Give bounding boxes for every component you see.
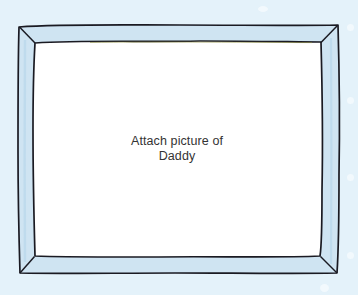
frame-illustration-canvas: Attach picture of Daddy — [0, 0, 358, 295]
frame-top-accent — [90, 42, 312, 43]
frame-inner-opening — [33, 41, 322, 257]
picture-frame-graphic — [0, 0, 358, 295]
